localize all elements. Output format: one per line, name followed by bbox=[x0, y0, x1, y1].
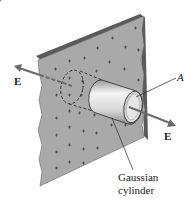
gaussian-sheet-diagram bbox=[0, 0, 191, 203]
charge-markers bbox=[0, 0, 2, 2]
cylinder-label-line1: Gaussian bbox=[118, 172, 158, 183]
field-label-right: E bbox=[164, 131, 171, 142]
field-arrow-left bbox=[14, 64, 40, 75]
cylinder-label-line2: cylinder bbox=[118, 185, 154, 196]
area-label: A bbox=[177, 72, 184, 83]
field-label-left: E bbox=[14, 76, 21, 87]
